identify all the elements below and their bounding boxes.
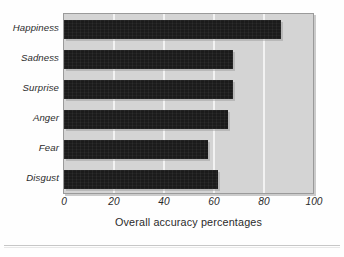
x-axis-title: Overall accuracy percentages — [63, 216, 314, 228]
bottom-separator-rule — [4, 245, 340, 246]
y-axis-tick-label: Sadness — [1, 52, 59, 63]
x-axis-tick-label: 20 — [108, 196, 119, 207]
y-axis-tick-labels: Happiness Sadness Surprise Anger Fear Di… — [0, 13, 59, 194]
y-axis-tick-label: Surprise — [1, 82, 59, 93]
bar-row — [64, 44, 233, 74]
x-axis-tick-label: 80 — [258, 196, 269, 207]
x-axis-tick-label: 40 — [158, 196, 169, 207]
x-axis-tick-label: 100 — [306, 196, 323, 207]
bar-surprise — [64, 80, 233, 99]
x-axis-tick-label: 0 — [61, 196, 67, 207]
bar-row — [64, 135, 208, 165]
bar-disgust — [64, 170, 218, 189]
y-axis-tick-label: Anger — [1, 112, 59, 123]
bottom-separator-rule-highlight — [4, 247, 340, 248]
bar-row — [64, 105, 228, 135]
bar-row — [64, 74, 233, 104]
bar-fear — [64, 140, 208, 159]
y-axis-tick-label: Happiness — [1, 22, 59, 33]
plot-area — [63, 13, 314, 194]
x-axis-tick-label: 60 — [208, 196, 219, 207]
y-axis-tick-label: Fear — [1, 142, 59, 153]
bar-chart-figure: Happiness Sadness Surprise Anger Fear Di… — [0, 0, 344, 257]
bar-row — [64, 165, 218, 195]
bar-anger — [64, 110, 228, 129]
x-axis-tick-labels: 0 20 40 60 80 100 — [0, 196, 344, 212]
bar-sadness — [64, 50, 233, 69]
bar-happiness — [64, 20, 281, 39]
bar-row — [64, 14, 281, 44]
y-axis-tick-label: Disgust — [1, 172, 59, 183]
